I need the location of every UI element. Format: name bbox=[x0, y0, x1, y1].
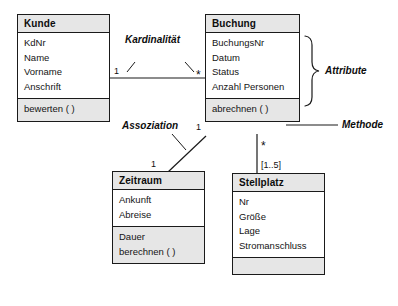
multiplicity-buchung-stellplatz-bottom: [1..5] bbox=[261, 160, 281, 170]
class-zeitraum[interactable]: Zeitraum Ankunft Abreise Dauer berechnen… bbox=[112, 171, 205, 264]
multiplicity-buchung-stellplatz-top: * bbox=[261, 141, 266, 151]
attribute: Lage bbox=[239, 224, 319, 239]
association-buchung-zeitraum bbox=[168, 136, 206, 172]
multiplicity-kunde-buchung-right: * bbox=[196, 70, 201, 80]
class-buchung-operations: abrechnen ( ) bbox=[206, 98, 299, 121]
attribute: Größe bbox=[239, 210, 319, 225]
class-stellplatz-attributes: Nr Größe Lage Stromanschluss bbox=[233, 192, 324, 257]
attribute: Stromanschluss bbox=[239, 239, 319, 254]
attribute: Anschrift bbox=[24, 80, 104, 95]
attribute: Status bbox=[212, 65, 294, 80]
class-kunde[interactable]: Kunde KdNr Name Vorname Anschrift bewert… bbox=[17, 14, 110, 122]
operation: bewerten ( ) bbox=[24, 102, 104, 117]
brace-attribute bbox=[305, 36, 319, 106]
attribute: Name bbox=[24, 51, 104, 66]
class-kunde-name: Kunde bbox=[18, 15, 109, 33]
attribute: KdNr bbox=[24, 36, 104, 51]
leader-kardinalitaet-right bbox=[185, 62, 194, 72]
multiplicity-kunde-buchung-left: 1 bbox=[114, 66, 119, 76]
attribute: Nr bbox=[239, 195, 319, 210]
operation: Dauer bbox=[119, 230, 199, 245]
class-zeitraum-attributes: Ankunft Abreise bbox=[113, 190, 204, 226]
attribute: BuchungsNr bbox=[212, 36, 294, 51]
class-kunde-attributes: KdNr Name Vorname Anschrift bbox=[18, 33, 109, 98]
class-buchung[interactable]: Buchung BuchungsNr Datum Status Anzahl P… bbox=[205, 14, 300, 122]
class-stellplatz-operations bbox=[233, 257, 324, 274]
annotation-assoziation: Assoziation bbox=[122, 120, 178, 131]
annotation-kardinalitaet: Kardinalität bbox=[125, 34, 180, 45]
attribute: Vorname bbox=[24, 65, 104, 80]
class-kunde-operations: bewerten ( ) bbox=[18, 98, 109, 121]
class-stellplatz[interactable]: Stellplatz Nr Größe Lage Stromanschluss bbox=[232, 173, 325, 275]
annotation-attribute: Attribute bbox=[325, 65, 367, 76]
multiplicity-buchung-zeitraum-bottom: 1 bbox=[151, 159, 156, 169]
class-buchung-attributes: BuchungsNr Datum Status Anzahl Personen bbox=[206, 33, 299, 98]
attribute: Datum bbox=[212, 51, 294, 66]
attribute: Abreise bbox=[119, 208, 199, 223]
attribute: Anzahl Personen bbox=[212, 80, 294, 95]
attribute: Ankunft bbox=[119, 193, 199, 208]
leader-kardinalitaet-left bbox=[127, 62, 135, 72]
class-zeitraum-name: Zeitraum bbox=[113, 172, 204, 190]
operation: abrechnen ( ) bbox=[212, 102, 294, 117]
class-buchung-name: Buchung bbox=[206, 15, 299, 33]
class-stellplatz-name: Stellplatz bbox=[233, 174, 324, 192]
multiplicity-buchung-zeitraum-top: 1 bbox=[196, 122, 201, 132]
leader-assoziation bbox=[172, 134, 186, 150]
uml-class-diagram: Kunde KdNr Name Vorname Anschrift bewert… bbox=[0, 0, 398, 306]
operation: berechnen ( ) bbox=[119, 245, 199, 260]
annotation-methode: Methode bbox=[342, 119, 383, 130]
class-zeitraum-operations: Dauer berechnen ( ) bbox=[113, 226, 204, 263]
